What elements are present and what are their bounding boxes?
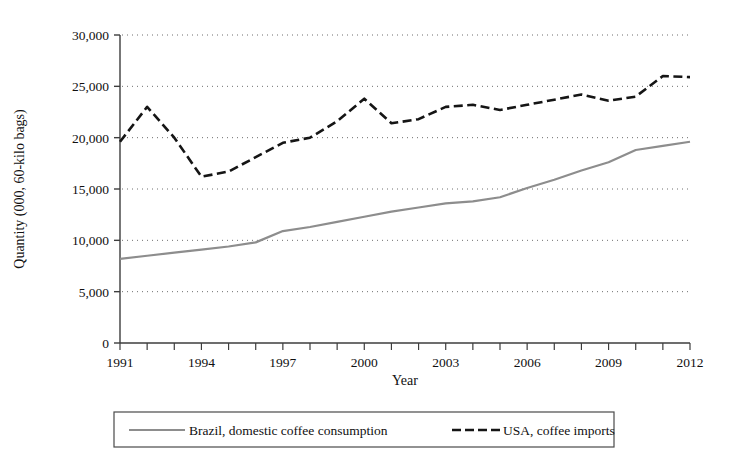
y-tick-label: 30,000	[72, 28, 109, 43]
x-tick-label: 1997	[269, 355, 296, 370]
x-tick-label: 2000	[351, 355, 378, 370]
x-tick-label: 2012	[677, 355, 704, 370]
y-axis-title: Quantity (000, 60-kilo bags)	[12, 109, 28, 269]
chart-legend: Brazil, domestic coffee consumption USA,…	[114, 412, 615, 447]
chart-figure: 05,00010,00015,00020,00025,00030,000 199…	[0, 0, 729, 465]
x-tick-label: 2009	[595, 355, 622, 370]
y-tick-label: 10,000	[72, 233, 109, 248]
x-tick-label: 1991	[107, 355, 134, 370]
x-tick-label: 2006	[514, 355, 541, 370]
x-tick-label: 2003	[432, 355, 459, 370]
y-tick-label: 20,000	[72, 131, 109, 146]
x-axis-ticks: 19911994199720002003200620092012	[107, 343, 704, 370]
y-axis-ticks: 05,00010,00015,00020,00025,00030,000	[72, 28, 120, 351]
legend-label-brazil: Brazil, domestic coffee consumption	[189, 423, 388, 438]
y-tick-label: 15,000	[72, 182, 109, 197]
legend-label-usa: USA, coffee imports	[503, 423, 615, 438]
y-tick-label: 5,000	[79, 285, 110, 300]
chart-canvas: 05,00010,00015,00020,00025,00030,000 199…	[0, 0, 729, 465]
y-tick-label: 25,000	[72, 79, 109, 94]
y-tick-label: 0	[102, 336, 109, 351]
plot-background	[120, 35, 690, 343]
x-axis-title: Year	[392, 373, 418, 388]
x-tick-label: 1994	[188, 355, 215, 370]
